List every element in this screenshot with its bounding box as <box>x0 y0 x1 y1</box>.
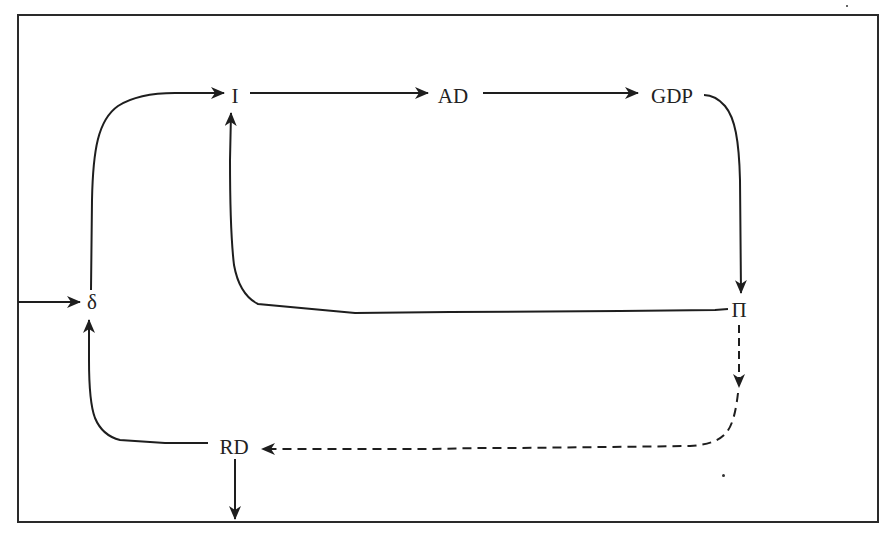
causal-diagram: I AD GDP δ Π RD <box>0 0 889 533</box>
node-profits-pi: Π <box>731 300 746 321</box>
node-rd: RD <box>219 437 248 458</box>
node-investment: I <box>232 86 239 107</box>
diagram-edges <box>0 0 889 533</box>
edge-pi-to-i <box>230 113 728 313</box>
edge-pi-to-rd-tail <box>262 393 738 449</box>
node-aggregate-demand: AD <box>438 86 468 107</box>
scan-speck <box>846 5 848 7</box>
edge-gdp-to-pi <box>704 95 741 293</box>
node-delta: δ <box>87 292 97 313</box>
scan-speck <box>722 474 725 477</box>
edge-rd-to-delta <box>89 320 208 443</box>
edge-delta-to-i <box>91 93 224 290</box>
node-gdp: GDP <box>651 86 693 107</box>
